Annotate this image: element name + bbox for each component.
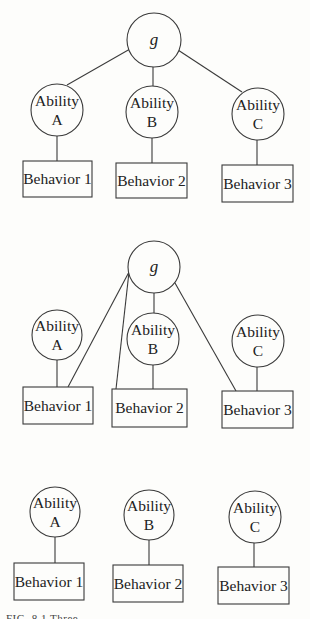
node-behavior-1: Behavior 1 (23, 387, 93, 424)
node-label: B (148, 340, 158, 357)
node-ability-c: AbilityC (229, 491, 281, 543)
node-label: Behavior 3 (223, 401, 292, 418)
node-label: Behavior 1 (24, 397, 92, 414)
panel-hierarchical: gAbilityAAbilityBAbilityCBehavior 1Behav… (23, 13, 293, 202)
panel-direct-g: gAbilityAAbilityBAbilityCBehavior 1Behav… (23, 241, 293, 428)
node-behavior-3: Behavior 3 (222, 391, 293, 428)
node-label: A (51, 111, 63, 128)
figure-caption: FIG. 8.1 Three (6, 610, 78, 619)
connector-line (178, 50, 242, 92)
node-label: C (253, 115, 263, 132)
connector-line (67, 49, 130, 85)
node-label: A (49, 513, 61, 530)
node-behavior-2: Behavior 2 (116, 163, 187, 198)
node-ability-c: AbilityC (232, 315, 284, 367)
node-label: Ability (236, 96, 280, 113)
node-label: Ability (131, 321, 175, 338)
node-label: Behavior 3 (223, 175, 292, 192)
panel-independent: AbilityAAbilityBAbilityCBehavior 1Behavi… (14, 487, 289, 604)
connector-line (175, 283, 236, 391)
node-label: Behavior 2 (114, 575, 182, 592)
node-ability-a: AbilityA (31, 84, 83, 136)
node-behavior-2: Behavior 2 (112, 389, 187, 427)
node-label: Ability (33, 494, 77, 511)
node-label: Ability (130, 94, 174, 111)
node-ability-b: AbilityB (126, 86, 178, 138)
node-label: C (250, 518, 260, 535)
node-label: Ability (127, 497, 171, 514)
node-label: Behavior 1 (23, 170, 91, 187)
node-label: Ability (35, 92, 79, 109)
node-behavior-1: Behavior 1 (23, 161, 92, 197)
node-label: C (253, 342, 263, 359)
node-label: Behavior 2 (115, 399, 183, 416)
node-label: Ability (236, 323, 280, 340)
node-label: Behavior 3 (219, 577, 288, 594)
connector-line (116, 272, 129, 389)
node-ability-b: AbilityB (124, 490, 174, 540)
diagram-canvas: gAbilityAAbilityBAbilityCBehavior 1Behav… (0, 0, 310, 619)
node-behavior-2: Behavior 2 (113, 565, 183, 602)
node-label: Behavior 2 (117, 172, 185, 189)
node-ability-a: AbilityA (30, 487, 80, 537)
node-ability-c: AbilityC (232, 88, 284, 140)
node-label: B (147, 113, 157, 130)
node-g: g (128, 241, 180, 293)
node-label: Behavior 1 (15, 573, 83, 590)
node-label: B (144, 516, 154, 533)
node-label: g (150, 257, 159, 276)
node-ability-b: AbilityB (127, 313, 179, 365)
node-g: g (127, 13, 181, 67)
node-label: A (51, 336, 63, 353)
node-behavior-1: Behavior 1 (14, 563, 84, 600)
node-label: g (150, 30, 159, 49)
node-behavior-3: Behavior 3 (222, 165, 293, 202)
node-label: Ability (233, 499, 277, 516)
node-behavior-3: Behavior 3 (218, 567, 289, 604)
node-ability-a: AbilityA (32, 310, 82, 360)
node-label: Ability (35, 317, 79, 334)
